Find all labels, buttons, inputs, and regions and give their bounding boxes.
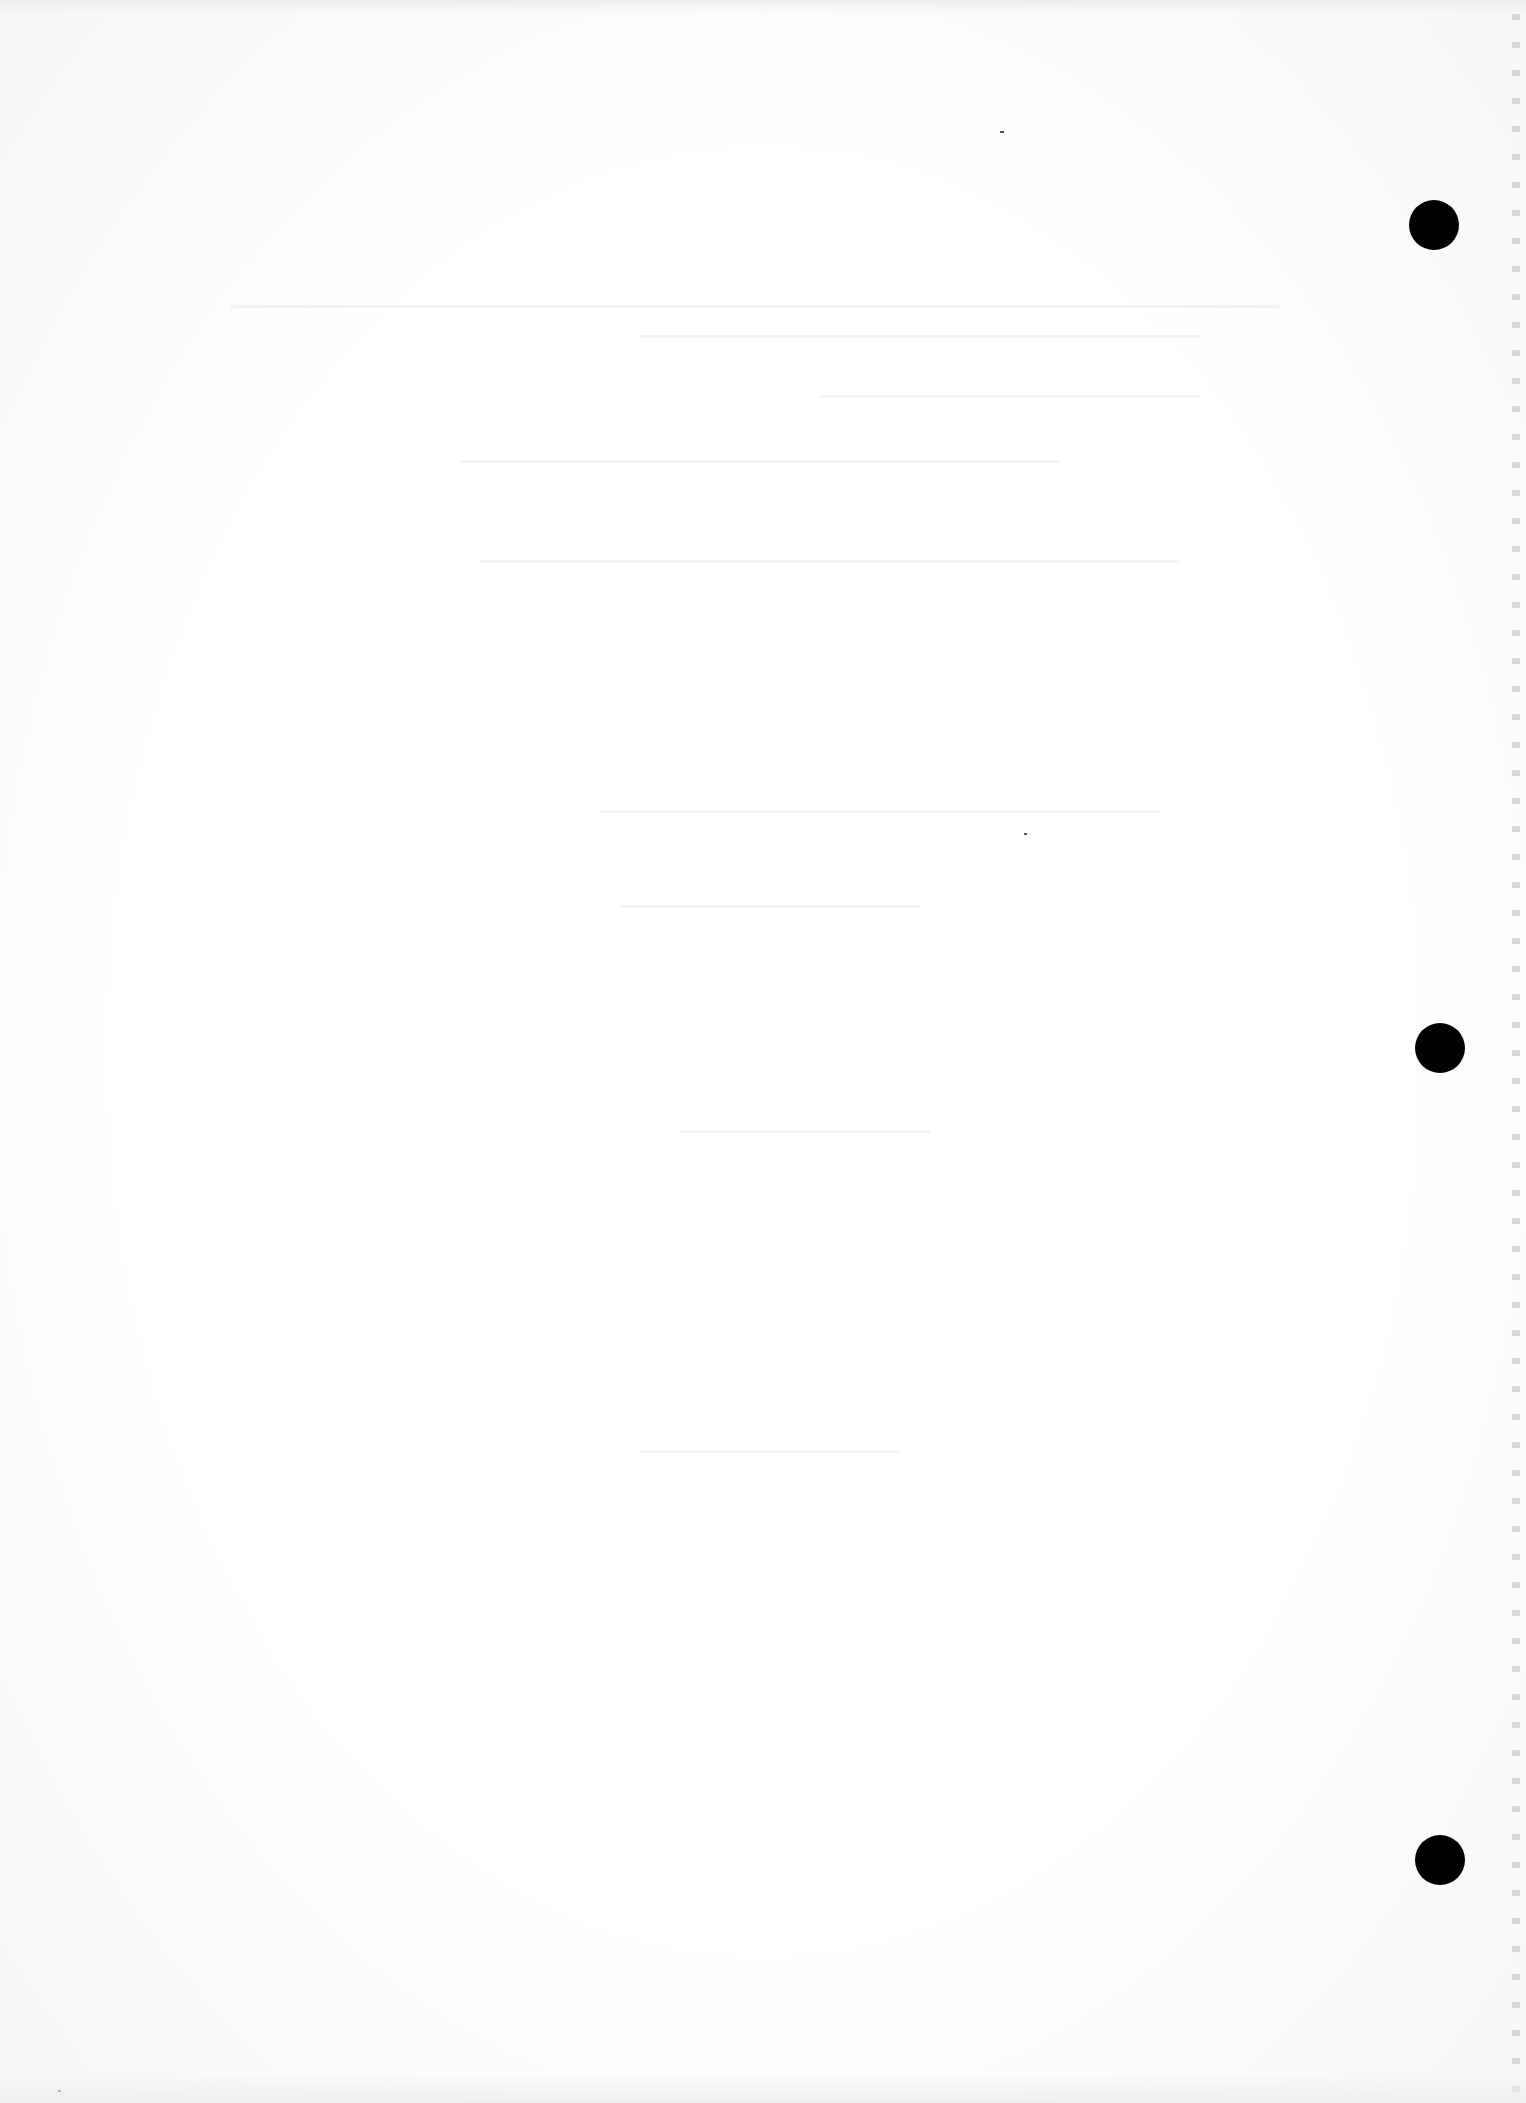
bleed-through-line	[620, 905, 920, 908]
scan-speck	[1000, 131, 1004, 133]
bleed-through-line	[600, 810, 1160, 813]
scan-speck	[1024, 833, 1027, 835]
bleed-through-line	[480, 560, 1180, 563]
bleed-through-line	[460, 460, 1060, 463]
perforated-edge	[1512, 0, 1520, 2103]
punch-hole-top	[1409, 200, 1459, 250]
bleed-through-line	[640, 335, 1200, 338]
page-bottom-shadow	[0, 2073, 1526, 2103]
bleed-through-line	[680, 1130, 930, 1133]
scanned-page	[0, 0, 1526, 2103]
bleed-through-line	[820, 395, 1200, 398]
bleed-through-line	[230, 305, 1280, 308]
bleed-through-line	[640, 1450, 900, 1453]
punch-hole-middle	[1415, 1023, 1465, 1073]
page-top-shadow	[0, 0, 1526, 14]
punch-hole-bottom	[1415, 1835, 1465, 1885]
